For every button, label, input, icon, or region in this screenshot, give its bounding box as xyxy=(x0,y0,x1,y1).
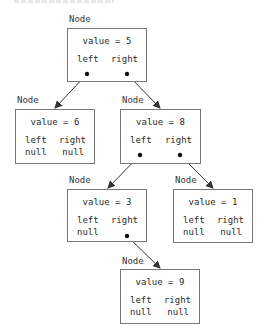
right-null-value: null xyxy=(167,307,189,317)
left-field-label: left xyxy=(183,215,205,225)
node-8-box: value = 8 left right xyxy=(120,109,201,164)
right-field-label: right xyxy=(164,295,191,305)
right-field-label: right xyxy=(59,135,86,145)
node-3-box: value = 3 left right null xyxy=(67,189,147,242)
right-field-label: right xyxy=(111,215,138,225)
right-field-label: right xyxy=(111,54,138,64)
left-field-label: left xyxy=(25,135,47,145)
node-value: value = 8 xyxy=(121,117,200,127)
left-field-label: left xyxy=(130,295,152,305)
node-label: Node xyxy=(175,175,197,185)
right-field-label: right xyxy=(165,135,192,145)
left-null-value: null xyxy=(77,227,99,237)
node-9-box: value = 9 left right null null xyxy=(120,269,200,324)
node-value: value = 9 xyxy=(121,277,199,287)
left-null-value: null xyxy=(25,147,47,157)
node-1-box: value = 1 left right null null xyxy=(173,189,253,243)
binary-tree-diagram: Node value = 5 left right Node value = 6… xyxy=(0,0,267,335)
right-null-value: null xyxy=(62,147,84,157)
left-null-value: null xyxy=(183,227,205,237)
right-field-label: right xyxy=(217,215,244,225)
node-6-box: value = 6 left right null null xyxy=(15,109,95,164)
node-value: value = 1 xyxy=(174,197,252,207)
left-null-value: null xyxy=(130,307,152,317)
node-label: Node xyxy=(122,256,144,266)
right-null-value: null xyxy=(220,227,242,237)
node-label: Node xyxy=(69,14,91,24)
left-field-label: left xyxy=(77,215,99,225)
left-field-label: left xyxy=(77,54,99,64)
node-label: Node xyxy=(122,95,144,105)
node-value: value = 3 xyxy=(68,197,146,207)
node-value: value = 6 xyxy=(16,117,94,127)
node-5-box: value = 5 left right xyxy=(67,28,147,82)
node-value: value = 5 xyxy=(68,36,146,46)
node-label: Node xyxy=(69,175,91,185)
left-field-label: left xyxy=(130,135,152,145)
node-label: Node xyxy=(17,95,39,105)
